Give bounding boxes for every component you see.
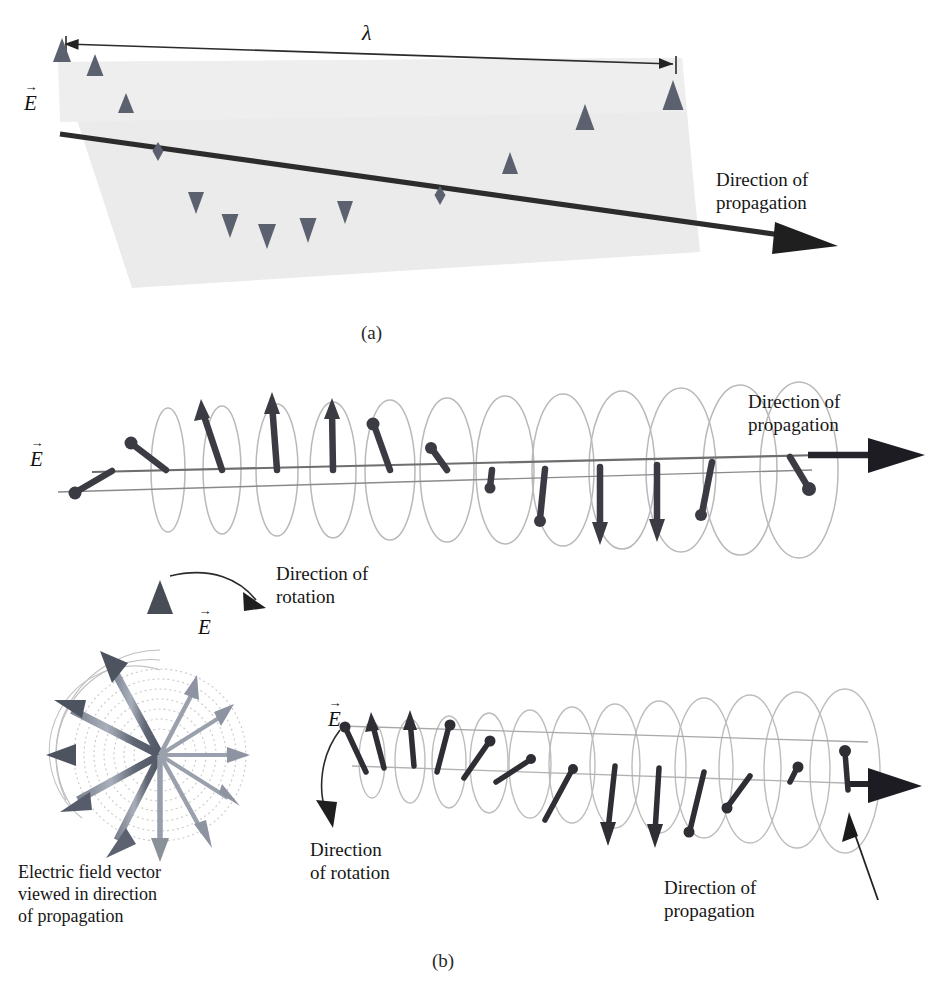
propagation-label-helix: Direction of propagation — [664, 876, 756, 922]
rotation-arrow-helix — [316, 730, 340, 828]
panel-b-id: (b) — [432, 950, 454, 972]
e-vector-label-helix: → E — [328, 700, 341, 732]
vector-accent-icon: → — [328, 700, 341, 707]
propagation-axis-helix — [340, 726, 922, 803]
rotation-label-helix: Direction of rotation — [310, 838, 390, 884]
e-vector-letter: E — [328, 707, 341, 731]
polarization-figure: → E λ Direction of propagation (a) — [0, 0, 938, 1000]
propagation-pointer-arrow — [842, 812, 878, 900]
panel-b-helix-graphics — [0, 0, 938, 1000]
